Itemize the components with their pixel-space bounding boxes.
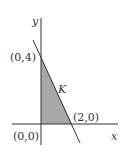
boundary-line <box>33 40 80 143</box>
diagram-canvas: y x (0,4) (2,0) (0,0) K <box>0 0 129 151</box>
region-label: K <box>57 83 67 96</box>
point-label-0-4: (0,4) <box>10 51 36 64</box>
point-label-2-0: (2,0) <box>73 111 99 124</box>
point-label-origin: (0,0) <box>13 130 39 143</box>
x-axis-label: x <box>111 130 118 143</box>
y-axis-label: y <box>31 15 39 28</box>
